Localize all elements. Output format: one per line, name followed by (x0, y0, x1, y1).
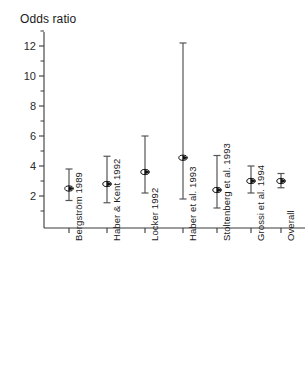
x-category-label: Bergström 1989 (73, 172, 84, 241)
y-tick-label: 8 (14, 100, 36, 112)
x-category-label: Locker 1992 (149, 188, 160, 241)
odds-ratio-forest-plot: Odds ratio 24681012 Bergström 1989Haber … (0, 0, 308, 372)
x-category-label: Stoltenberg et al. 1993 (221, 143, 232, 241)
y-tick-label: 6 (14, 130, 36, 142)
x-category-label: Overall (285, 210, 296, 241)
x-category-label: Grossi et al. 1994 (255, 165, 266, 241)
data-point-group (277, 174, 286, 188)
y-tick-label: 12 (14, 40, 36, 52)
x-category-label: Haber et al. 1993 (187, 166, 198, 241)
data-point-group (141, 136, 150, 193)
y-tick-label: 10 (14, 70, 36, 82)
x-category-label: Haber & Kent 1992 (111, 158, 122, 241)
y-tick-label: 4 (14, 160, 36, 172)
y-tick-label: 2 (14, 190, 36, 202)
